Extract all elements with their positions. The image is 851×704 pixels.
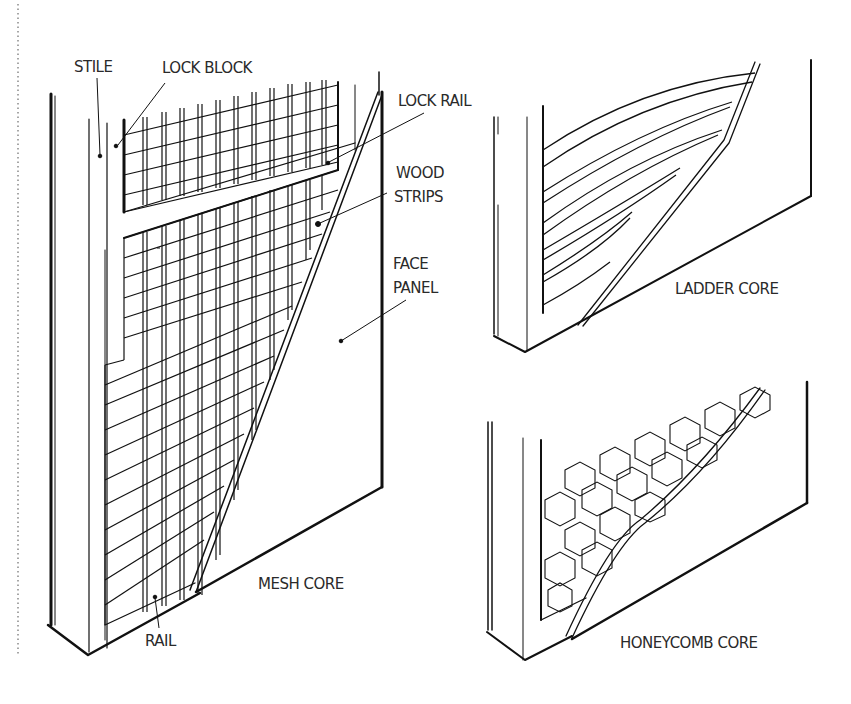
ladder-core-door [494,60,811,352]
honeycomb-core-door [487,382,807,660]
caption-mesh-core: MESH CORE [258,575,344,594]
mesh-leader-lines [97,78,424,628]
label-face-panel-line1: FACE [393,255,428,274]
label-stile: STILE [74,58,112,77]
label-wood-strips-line2: STRIPS [394,188,443,207]
mesh-core-door [48,72,382,655]
label-wood-strips-line1: WOOD [396,164,444,183]
label-rail: RAIL [145,632,176,651]
caption-ladder-core: LADDER CORE [675,280,778,299]
label-face-panel-line2: PANEL [393,279,438,298]
caption-honeycomb-core: HONEYCOMB CORE [620,634,758,653]
label-lock-block: LOCK BLOCK [162,59,252,78]
label-lock-rail: LOCK RAIL [398,92,471,111]
